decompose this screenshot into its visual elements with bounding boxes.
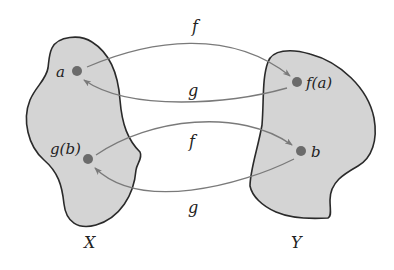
set-y-label: Y [291, 233, 303, 252]
arrow-f-a-to-fa [87, 43, 290, 76]
label-b: b [311, 143, 321, 161]
function-diagram: a g(b) f(a) b f g f g X Y [0, 0, 394, 270]
point-a [72, 66, 82, 76]
point-gb [83, 154, 93, 164]
label-gb: g(b) [50, 140, 81, 158]
set-x-label: X [82, 233, 96, 252]
arrow-label-f-bottom: f [188, 132, 198, 151]
label-a: a [56, 63, 65, 81]
arrow-label-f-top: f [191, 17, 201, 36]
point-fa [292, 77, 302, 87]
set-x-region [26, 37, 140, 226]
arrow-label-g-top: g [188, 81, 198, 100]
arrow-label-g-bottom: g [188, 198, 198, 217]
label-fa: f(a) [305, 74, 332, 92]
point-b [296, 146, 306, 156]
